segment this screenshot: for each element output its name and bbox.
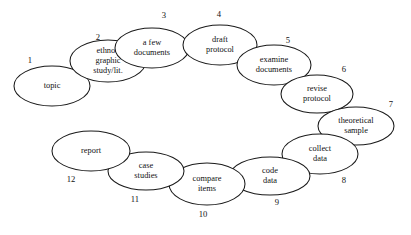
cycle-diagram: topicethno–graphicstudy/lit.a fewdocumen… [0,0,411,235]
node-label-line: revise [307,84,327,93]
node-label-line: case [139,161,154,170]
cycle-node-6[interactable]: reviseprotocol [281,75,353,113]
node-label-line: data [263,176,277,185]
node-label-line: graphic [95,56,120,65]
node-label-line: report [81,146,102,155]
node-label-line: documents [134,48,170,57]
node-label-line: theoretical [338,116,374,125]
node-label-line: studies [134,171,157,180]
cycle-node-12[interactable]: report [52,131,130,171]
node-label-line: topic [44,81,61,90]
node-label-line: draft [212,35,228,44]
node-label-line: compare [193,174,222,183]
node-label-line: examine [260,55,289,64]
cycle-node-3[interactable]: a fewdocuments [115,28,189,68]
node-step-number-5: 5 [286,35,290,45]
node-step-number-7: 7 [389,99,394,109]
node-label-line: study/lit. [93,66,123,75]
node-label-line: collect [309,144,332,153]
node-step-number-12: 12 [67,174,76,184]
node-label-line: sample [344,126,368,135]
node-step-number-6: 6 [342,64,347,74]
node-label-line: code [262,166,278,175]
node-label-line: a few [143,38,162,47]
node-step-number-4: 4 [217,9,222,19]
node-step-number-10: 10 [199,209,208,219]
node-step-number-3: 3 [162,10,166,20]
node-label-line: protocol [206,45,235,54]
node-label-line: data [313,154,327,163]
node-label-line: items [198,184,216,193]
node-step-number-11: 11 [131,194,139,204]
node-step-number-1: 1 [28,55,32,65]
diagram-canvas: topicethno–graphicstudy/lit.a fewdocumen… [0,0,411,235]
node-label-line: protocol [303,94,332,103]
node-step-number-2: 2 [96,32,100,42]
node-step-number-9: 9 [275,197,279,207]
node-step-number-8: 8 [342,175,346,185]
node-label-line: documents [256,65,292,74]
